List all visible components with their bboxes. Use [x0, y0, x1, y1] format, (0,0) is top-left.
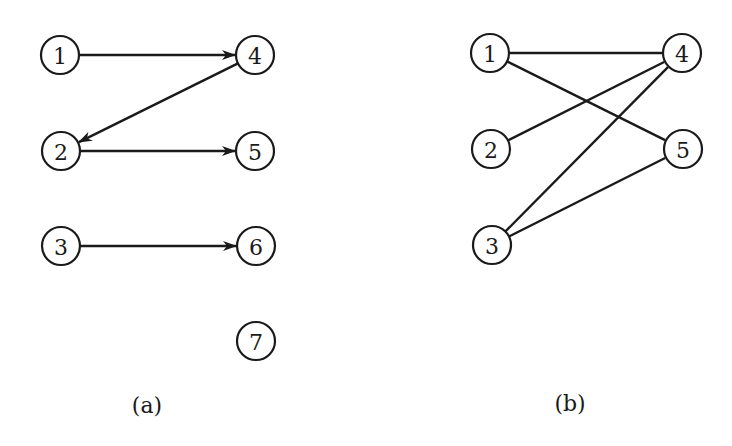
- node-label: 2: [54, 140, 68, 165]
- node-1: 1: [471, 34, 509, 72]
- graph-a-edges: [79, 55, 238, 246]
- node-3: 3: [42, 227, 80, 265]
- node-2: 2: [42, 132, 80, 170]
- node-label: 1: [53, 44, 67, 69]
- node-6: 6: [237, 227, 275, 265]
- node-5: 5: [236, 132, 274, 170]
- graph-b-edges: [505, 53, 668, 236]
- caption-b: (b): [554, 391, 585, 416]
- node-label: 5: [248, 140, 262, 165]
- node-label: 3: [485, 234, 499, 259]
- node-label: 5: [676, 138, 690, 163]
- node-label: 7: [249, 330, 263, 355]
- node-4: 4: [663, 34, 701, 72]
- edge-4-2: [79, 63, 238, 142]
- graph-a-nodes: 1234567: [41, 36, 275, 360]
- node-label: 6: [249, 235, 263, 260]
- node-label: 1: [483, 42, 497, 67]
- node-7: 7: [237, 322, 275, 360]
- edge-3-4: [505, 67, 668, 231]
- diagram-canvas: 1234567 (a) 12345 (b): [0, 0, 732, 446]
- graph-a: 1234567 (a): [41, 36, 275, 418]
- caption-a: (a): [132, 393, 162, 418]
- node-2: 2: [472, 130, 510, 168]
- node-1: 1: [41, 36, 79, 74]
- node-label: 2: [484, 138, 498, 163]
- node-3: 3: [473, 226, 511, 264]
- edge-3-5: [509, 158, 665, 236]
- node-label: 3: [54, 235, 68, 260]
- node-label: 4: [248, 44, 262, 69]
- graph-b: 12345 (b): [471, 34, 702, 416]
- node-5: 5: [664, 130, 702, 168]
- node-label: 4: [675, 42, 689, 67]
- node-4: 4: [236, 36, 274, 74]
